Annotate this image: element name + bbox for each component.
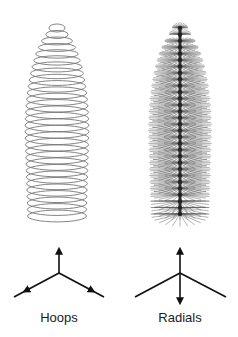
radials-shape: [148, 22, 212, 226]
diagram-canvas: [0, 0, 238, 337]
radials-axis-glyph: [135, 250, 226, 302]
hoops-shape: [25, 24, 89, 222]
hoops-axis-glyph: [14, 250, 104, 297]
radials-label: Radials: [158, 310, 201, 325]
hoops-label: Hoops: [40, 310, 78, 325]
